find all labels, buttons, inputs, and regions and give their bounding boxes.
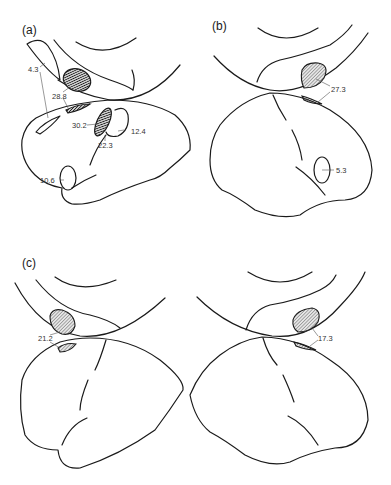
panel-c-label: (c) [22, 256, 36, 270]
sulcus-mid [292, 130, 302, 160]
cerebellum-arc-inner [55, 277, 116, 287]
panel-c: (c) 21.2 [15, 256, 183, 468]
frontal-flap [27, 40, 60, 80]
lesion-hatched-upper [50, 310, 75, 335]
value-label: 5.3 [336, 166, 346, 175]
value-label: 21.2 [38, 334, 53, 343]
cerebellum-arc-outer [15, 283, 165, 336]
value-label: 10.6 [40, 176, 55, 185]
panel-b: (b) 27.3 5.3 [210, 19, 372, 217]
panel-a-label: (a) [22, 23, 37, 37]
value-label: 27.3 [331, 85, 346, 94]
panel-a: (a) 4.3 28.8 30.2 [22, 23, 190, 204]
sulcus-upper [273, 95, 286, 120]
sulcus-lower [288, 416, 318, 445]
sulcus-mid [80, 380, 88, 410]
value-label: 17.3 [318, 334, 333, 343]
value-label: 28.8 [52, 92, 67, 101]
cerebellum-arc-inner [76, 38, 136, 50]
panel-b-label: (b) [212, 19, 227, 33]
value-label: 12.4 [131, 127, 146, 136]
panel-c-right: 17.3 [190, 272, 368, 464]
cerebellum-arc-inner [248, 272, 312, 282]
lesion-hatched-strip [302, 96, 322, 104]
value-label: 22.3 [98, 141, 113, 150]
lesion-hatched-strip [58, 344, 76, 353]
value-label: 30.2 [72, 121, 87, 130]
lesion-dark-central [91, 106, 115, 138]
sulcus-central [90, 135, 106, 165]
sulcus-lower [62, 418, 87, 445]
lesion-open-strip [36, 116, 60, 134]
cerebellum-arc-outer [214, 33, 368, 91]
cortex-outline [190, 337, 368, 464]
lesion-hatched-upper [293, 308, 319, 332]
cerebellum-arc-tail [132, 70, 134, 90]
cerebellum-arc-mid [36, 280, 120, 328]
brain-lesion-figure: (a) 4.3 28.8 30.2 [0, 0, 391, 485]
cortex-outline [210, 93, 372, 217]
lesion-hatched-upper [301, 63, 326, 88]
sulcus-mid [283, 375, 294, 402]
sulcus-upper [263, 338, 277, 365]
sulcus-upper [95, 340, 106, 370]
value-label: 4.3 [28, 65, 38, 74]
cortex-outline [21, 338, 184, 468]
sulcus-lower [296, 167, 325, 195]
cerebellum-arc-inner [258, 28, 318, 38]
